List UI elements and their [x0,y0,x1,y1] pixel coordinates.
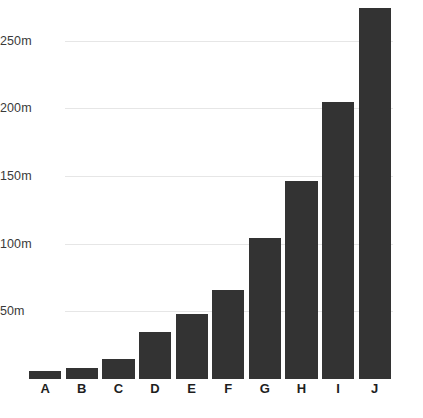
category-label: B [64,381,101,396]
category-label: H [283,381,320,396]
bar [29,371,61,379]
category-label: G [247,381,284,396]
category-label: F [210,381,247,396]
bar [322,102,354,379]
bars [27,0,393,379]
bar [249,238,281,379]
bar [102,359,134,379]
bar-chart: 50m100m150m200m250m ABCDEFGHIJ [0,0,423,418]
category-label: E [173,381,210,396]
bar [285,181,317,379]
bar [176,314,208,379]
bar [212,290,244,379]
y-tick-label: 50m [0,304,25,318]
category-label: D [137,381,174,396]
category-label: A [27,381,64,396]
x-axis-category-labels: ABCDEFGHIJ [27,381,393,405]
bar [139,332,171,379]
category-label: I [320,381,357,396]
x-axis-line [27,379,393,380]
category-label: J [356,381,393,396]
bar [66,368,98,379]
bar [359,8,391,379]
category-label: C [100,381,137,396]
